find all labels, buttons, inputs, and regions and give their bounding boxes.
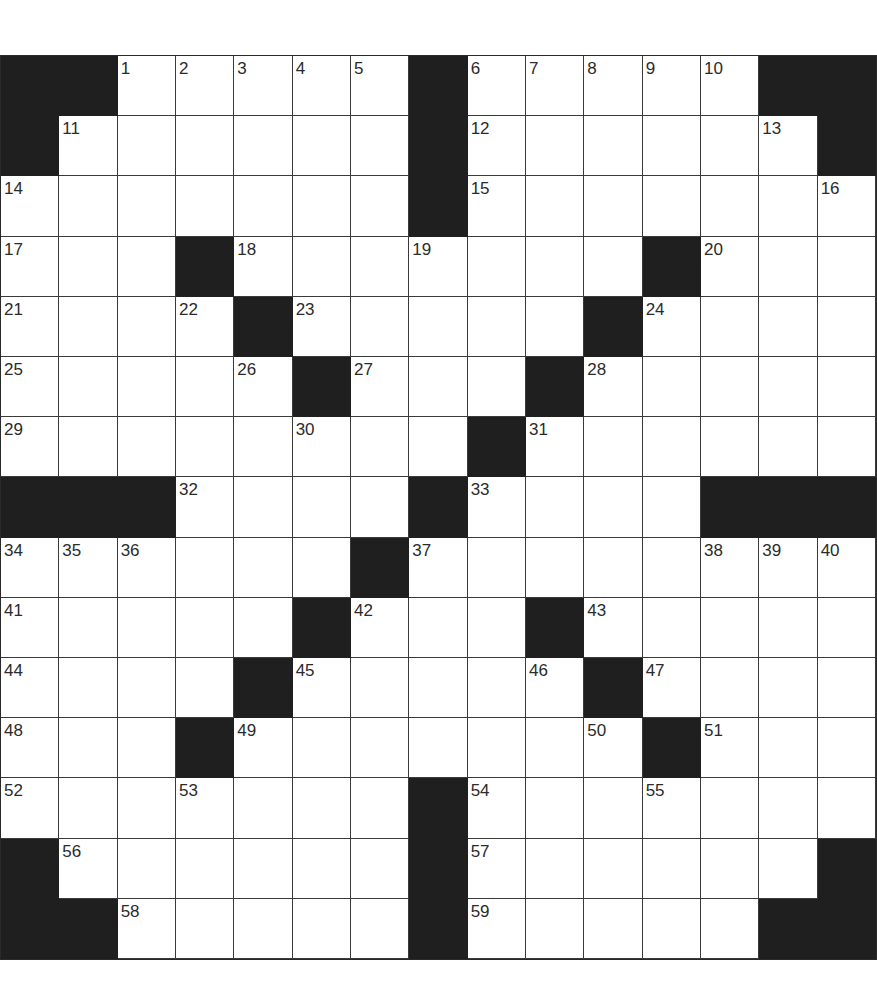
grid-cell[interactable] xyxy=(701,778,759,838)
grid-cell[interactable] xyxy=(468,658,526,718)
grid-cell[interactable] xyxy=(351,116,409,176)
grid-cell[interactable]: 18 xyxy=(234,237,292,297)
grid-cell[interactable] xyxy=(584,538,642,598)
grid-cell[interactable] xyxy=(176,839,234,899)
grid-cell[interactable]: 49 xyxy=(234,718,292,778)
grid-cell[interactable] xyxy=(643,598,701,658)
grid-cell[interactable]: 25 xyxy=(1,357,59,417)
grid-cell[interactable] xyxy=(818,237,876,297)
grid-cell[interactable] xyxy=(176,658,234,718)
grid-cell[interactable] xyxy=(818,658,876,718)
grid-cell[interactable]: 29 xyxy=(1,417,59,477)
grid-cell[interactable] xyxy=(59,598,117,658)
grid-cell[interactable] xyxy=(643,477,701,537)
grid-cell[interactable] xyxy=(643,417,701,477)
grid-cell[interactable] xyxy=(584,417,642,477)
grid-cell[interactable]: 35 xyxy=(59,538,117,598)
grid-cell[interactable] xyxy=(526,778,584,838)
grid-cell[interactable] xyxy=(759,718,817,778)
grid-cell[interactable] xyxy=(584,477,642,537)
grid-cell[interactable] xyxy=(759,176,817,236)
grid-cell[interactable]: 33 xyxy=(468,477,526,537)
grid-cell[interactable] xyxy=(526,538,584,598)
grid-cell[interactable] xyxy=(234,116,292,176)
grid-cell[interactable]: 13 xyxy=(759,116,817,176)
grid-cell[interactable] xyxy=(818,718,876,778)
grid-cell[interactable] xyxy=(176,116,234,176)
grid-cell[interactable] xyxy=(59,718,117,778)
grid-cell[interactable]: 46 xyxy=(526,658,584,718)
grid-cell[interactable] xyxy=(59,176,117,236)
grid-cell[interactable]: 17 xyxy=(1,237,59,297)
grid-cell[interactable]: 52 xyxy=(1,778,59,838)
grid-cell[interactable] xyxy=(759,658,817,718)
grid-cell[interactable] xyxy=(409,598,467,658)
grid-cell[interactable] xyxy=(468,598,526,658)
grid-cell[interactable]: 34 xyxy=(1,538,59,598)
grid-cell[interactable] xyxy=(351,658,409,718)
grid-cell[interactable] xyxy=(234,899,292,959)
grid-cell[interactable] xyxy=(176,357,234,417)
grid-cell[interactable]: 31 xyxy=(526,417,584,477)
grid-cell[interactable] xyxy=(293,237,351,297)
grid-cell[interactable] xyxy=(234,477,292,537)
grid-cell[interactable] xyxy=(526,237,584,297)
grid-cell[interactable] xyxy=(59,237,117,297)
grid-cell[interactable]: 5 xyxy=(351,56,409,116)
grid-cell[interactable] xyxy=(584,176,642,236)
grid-cell[interactable] xyxy=(118,839,176,899)
grid-cell[interactable]: 21 xyxy=(1,297,59,357)
grid-cell[interactable] xyxy=(234,598,292,658)
grid-cell[interactable]: 55 xyxy=(643,778,701,838)
grid-cell[interactable] xyxy=(59,417,117,477)
grid-cell[interactable]: 20 xyxy=(701,237,759,297)
grid-cell[interactable]: 3 xyxy=(234,56,292,116)
grid-cell[interactable]: 28 xyxy=(584,357,642,417)
grid-cell[interactable] xyxy=(176,176,234,236)
grid-cell[interactable]: 9 xyxy=(643,56,701,116)
grid-cell[interactable] xyxy=(59,658,117,718)
grid-cell[interactable] xyxy=(526,899,584,959)
grid-cell[interactable] xyxy=(526,176,584,236)
grid-cell[interactable] xyxy=(234,538,292,598)
grid-cell[interactable]: 32 xyxy=(176,477,234,537)
grid-cell[interactable] xyxy=(59,778,117,838)
grid-cell[interactable] xyxy=(701,417,759,477)
grid-cell[interactable] xyxy=(759,297,817,357)
grid-cell[interactable] xyxy=(351,176,409,236)
grid-cell[interactable]: 22 xyxy=(176,297,234,357)
grid-cell[interactable] xyxy=(293,718,351,778)
grid-cell[interactable]: 14 xyxy=(1,176,59,236)
grid-cell[interactable] xyxy=(234,778,292,838)
grid-cell[interactable]: 37 xyxy=(409,538,467,598)
grid-cell[interactable] xyxy=(409,718,467,778)
grid-cell[interactable] xyxy=(818,778,876,838)
grid-cell[interactable] xyxy=(118,658,176,718)
grid-cell[interactable] xyxy=(118,237,176,297)
grid-cell[interactable]: 38 xyxy=(701,538,759,598)
grid-cell[interactable]: 30 xyxy=(293,417,351,477)
grid-cell[interactable] xyxy=(293,778,351,838)
grid-cell[interactable] xyxy=(701,839,759,899)
grid-cell[interactable] xyxy=(759,357,817,417)
grid-cell[interactable] xyxy=(118,116,176,176)
grid-cell[interactable] xyxy=(643,116,701,176)
grid-cell[interactable] xyxy=(701,658,759,718)
grid-cell[interactable]: 41 xyxy=(1,598,59,658)
grid-cell[interactable] xyxy=(643,839,701,899)
grid-cell[interactable]: 53 xyxy=(176,778,234,838)
grid-cell[interactable] xyxy=(351,839,409,899)
grid-cell[interactable] xyxy=(759,417,817,477)
grid-cell[interactable] xyxy=(701,176,759,236)
grid-cell[interactable] xyxy=(176,538,234,598)
grid-cell[interactable] xyxy=(293,116,351,176)
grid-cell[interactable] xyxy=(409,658,467,718)
grid-cell[interactable] xyxy=(351,718,409,778)
grid-cell[interactable]: 24 xyxy=(643,297,701,357)
grid-cell[interactable]: 19 xyxy=(409,237,467,297)
grid-cell[interactable] xyxy=(759,237,817,297)
grid-cell[interactable]: 48 xyxy=(1,718,59,778)
grid-cell[interactable] xyxy=(351,477,409,537)
grid-cell[interactable] xyxy=(701,598,759,658)
grid-cell[interactable] xyxy=(584,839,642,899)
